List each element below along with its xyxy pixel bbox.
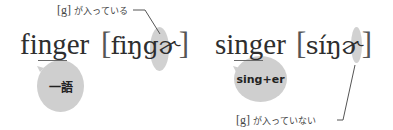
- word-finger: finger: [20, 30, 89, 59]
- connector-lines: [0, 0, 393, 130]
- ipa-finger: [fiŋgɚ]: [101, 28, 189, 59]
- note-g-not-included: [g] が入っていない: [236, 114, 316, 126]
- underlined-ng: ng: [234, 28, 263, 61]
- ipa-singer: [síŋɚ]: [296, 28, 372, 59]
- note-g-included: [g] が入っている: [57, 4, 128, 16]
- highlighted-g: g: [143, 31, 159, 60]
- word-singer: singer: [215, 30, 286, 59]
- underlined-ng: ng: [38, 28, 67, 61]
